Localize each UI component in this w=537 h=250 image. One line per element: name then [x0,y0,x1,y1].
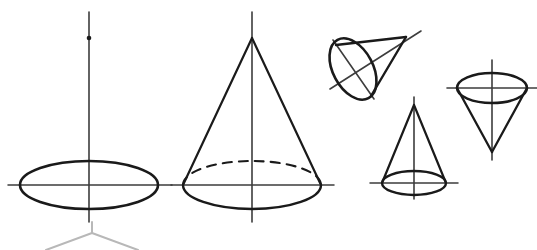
diagram-canvas [0,0,537,250]
axis-marked-point [87,36,92,41]
background-rect [0,0,537,250]
cone-figures-svg [0,0,537,250]
